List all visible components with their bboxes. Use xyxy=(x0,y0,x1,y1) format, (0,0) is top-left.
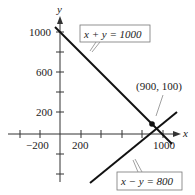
intersection-point-label: (900, 100) xyxy=(136,80,182,93)
x-tick-label-1000: 1000 xyxy=(153,139,176,151)
y-axis-arrow-icon xyxy=(57,16,63,24)
label-box-line2: x − y = 800 xyxy=(117,159,182,190)
y-tick-label-1000: 1000 xyxy=(29,26,52,38)
y-tick-label-600: 600 xyxy=(36,66,53,78)
intersection-point xyxy=(149,121,155,127)
x-axis-label: x xyxy=(182,127,188,139)
system-of-equations-graph: 1000 600 200 −200 200 1000 y x x + y = 1… xyxy=(0,0,195,195)
x-axis-arrow-icon xyxy=(173,131,181,137)
point-leader xyxy=(156,95,163,116)
label-box-line1: x + y = 1000 xyxy=(80,25,150,52)
axes xyxy=(8,20,176,182)
y-tick-label-200: 200 xyxy=(36,106,53,118)
x-tick-label-200: 200 xyxy=(72,139,89,151)
x-tick-label-neg200: −200 xyxy=(26,139,49,151)
y-axis-label: y xyxy=(56,3,62,15)
line2-label: x − y = 800 xyxy=(120,175,174,187)
line1-label: x + y = 1000 xyxy=(83,28,142,40)
